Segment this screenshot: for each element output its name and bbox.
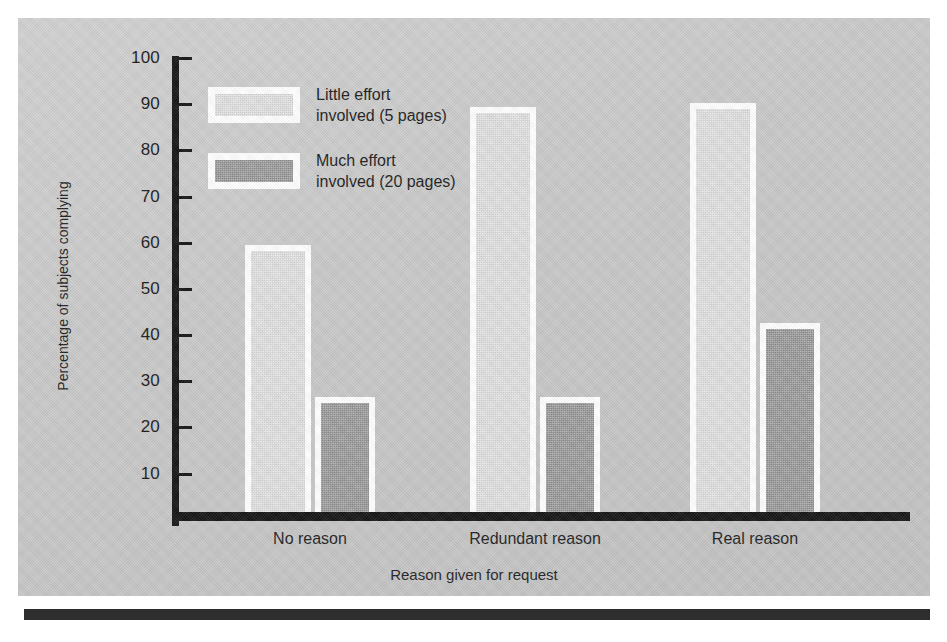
legend-label-much-effort-line1: Much effort xyxy=(316,150,456,171)
y-tick-label-100: 100 xyxy=(116,48,160,68)
legend-swatch-little-effort xyxy=(208,87,300,123)
x-category-label-redundant-reason: Redundant reason xyxy=(469,530,601,548)
y-tick-80 xyxy=(179,149,192,152)
y-tick-label-10: 10 xyxy=(116,464,160,484)
y-tick-label-90: 90 xyxy=(116,94,160,114)
figure: 100 90 80 70 60 50 40 30 20 10 Percentag… xyxy=(0,0,947,642)
y-tick-label-70: 70 xyxy=(116,187,160,207)
y-tick-20 xyxy=(179,426,192,429)
x-axis-line xyxy=(172,512,910,521)
x-axis-title: Reason given for request xyxy=(18,566,930,583)
bar-real-reason-little-effort xyxy=(690,103,756,512)
bar-redundant-reason-little-effort xyxy=(470,107,536,512)
y-tick-label-40: 40 xyxy=(116,325,160,345)
y-tick-label-60: 60 xyxy=(116,233,160,253)
y-tick-90 xyxy=(179,103,192,106)
legend-item-much-effort: Much effort involved (20 pages) xyxy=(208,150,456,192)
y-tick-label-50: 50 xyxy=(116,279,160,299)
y-tick-40 xyxy=(179,334,192,337)
bar-no-reason-little-effort xyxy=(245,245,311,512)
y-tick-label-80: 80 xyxy=(116,140,160,160)
chart-panel: 100 90 80 70 60 50 40 30 20 10 Percentag… xyxy=(18,18,930,596)
bar-redundant-reason-much-effort xyxy=(540,397,600,512)
y-tick-10 xyxy=(179,473,192,476)
bar-no-reason-much-effort xyxy=(315,397,375,512)
legend: Little effort involved (5 pages) Much ef… xyxy=(208,84,456,216)
legend-item-little-effort: Little effort involved (5 pages) xyxy=(208,84,456,126)
y-axis-title: Percentage of subjects complying xyxy=(55,156,71,416)
x-category-label-real-reason: Real reason xyxy=(712,530,798,548)
y-tick-30 xyxy=(179,380,192,383)
legend-label-little-effort-line2: involved (5 pages) xyxy=(316,105,447,126)
legend-swatch-much-effort xyxy=(208,153,300,189)
plot-area: 100 90 80 70 60 50 40 30 20 10 Percentag… xyxy=(18,18,930,596)
legend-label-much-effort: Much effort involved (20 pages) xyxy=(316,150,456,192)
y-tick-label-20: 20 xyxy=(116,417,160,437)
y-tick-50 xyxy=(179,288,192,291)
y-axis-line xyxy=(172,56,179,526)
bottom-rule xyxy=(24,609,930,620)
y-tick-100 xyxy=(179,57,192,60)
legend-label-little-effort: Little effort involved (5 pages) xyxy=(316,84,447,126)
y-tick-60 xyxy=(179,242,192,245)
y-tick-70 xyxy=(179,196,192,199)
legend-label-little-effort-line1: Little effort xyxy=(316,84,447,105)
legend-label-much-effort-line2: involved (20 pages) xyxy=(316,171,456,192)
bar-real-reason-much-effort xyxy=(760,323,820,512)
x-category-label-no-reason: No reason xyxy=(273,530,347,548)
y-tick-label-30: 30 xyxy=(116,371,160,391)
